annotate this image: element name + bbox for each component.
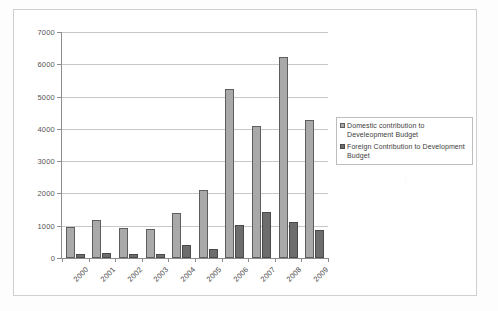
x-axis-label-2003: 2003 — [152, 265, 171, 284]
bar-foreign-2005[interactable] — [209, 249, 218, 258]
y-axis-label: 4000 — [38, 124, 56, 133]
y-axis-tick — [57, 64, 62, 65]
bar-domestic-2003[interactable] — [146, 229, 155, 258]
legend-item-foreign[interactable]: Foreign Contribution to Development Budg… — [340, 142, 469, 160]
y-axis-label: 1000 — [38, 221, 56, 230]
x-axis-tick — [301, 258, 302, 262]
y-axis-label: 0 — [51, 254, 55, 263]
scanned-page: 0100020003000400050006000700020002001200… — [0, 0, 498, 311]
bar-domestic-2001[interactable] — [92, 220, 101, 258]
x-axis-tick — [222, 258, 223, 262]
x-axis-label-2000: 2000 — [72, 265, 91, 284]
bar-foreign-2006[interactable] — [235, 225, 244, 258]
x-axis-tick — [89, 258, 90, 262]
bar-foreign-2007[interactable] — [262, 212, 271, 258]
legend-label-foreign: Foreign Contribution to Development Budg… — [347, 142, 469, 160]
bar-domestic-2009[interactable] — [305, 120, 314, 258]
scan-artifact-mark: ⁚ — [405, 177, 407, 182]
x-axis-tick — [115, 258, 116, 262]
x-axis-label-2006: 2006 — [232, 265, 251, 284]
bar-group — [252, 32, 271, 258]
y-axis-tick — [57, 226, 62, 227]
x-axis-tick — [168, 258, 169, 262]
chart-legend: Domestic contribution to Develeopment Bu… — [336, 117, 473, 165]
bar-domestic-2000[interactable] — [66, 227, 75, 258]
legend-label-domestic: Domestic contribution to Develeopment Bu… — [347, 121, 469, 139]
bar-group — [119, 32, 138, 258]
y-axis-label: 6000 — [38, 60, 56, 69]
bar-foreign-2003[interactable] — [156, 254, 165, 258]
x-axis-tick — [62, 258, 63, 262]
y-axis-label: 5000 — [38, 92, 56, 101]
x-axis-label-2008: 2008 — [285, 265, 304, 284]
bar-domestic-2007[interactable] — [252, 126, 261, 258]
y-axis-tick — [57, 32, 62, 33]
bar-domestic-2002[interactable] — [119, 228, 128, 258]
x-axis-tick — [195, 258, 196, 262]
bar-domestic-2008[interactable] — [279, 57, 288, 258]
x-axis-tick — [142, 258, 143, 262]
bar-group — [305, 32, 324, 258]
x-axis-label-2007: 2007 — [258, 265, 277, 284]
bar-foreign-2008[interactable] — [289, 222, 298, 258]
y-axis-label: 2000 — [38, 189, 56, 198]
legend-item-domestic[interactable]: Domestic contribution to Develeopment Bu… — [340, 121, 469, 139]
legend-swatch-foreign — [340, 144, 345, 149]
x-axis-label-2005: 2005 — [205, 265, 224, 284]
bar-domestic-2005[interactable] — [199, 190, 208, 258]
y-axis-label: 7000 — [38, 28, 56, 37]
bar-group — [199, 32, 218, 258]
y-axis-tick — [57, 97, 62, 98]
bar-foreign-2009[interactable] — [315, 230, 324, 258]
bar-group — [279, 32, 298, 258]
bar-domestic-2004[interactable] — [172, 213, 181, 258]
plot-area: 0100020003000400050006000700020002001200… — [61, 32, 328, 259]
bar-group — [225, 32, 244, 258]
bar-group — [146, 32, 165, 258]
y-axis-tick — [57, 161, 62, 162]
bar-foreign-2001[interactable] — [102, 253, 111, 258]
bar-chart: 0100020003000400050006000700020002001200… — [0, 0, 498, 311]
bar-foreign-2000[interactable] — [76, 254, 85, 258]
x-axis-tick — [328, 258, 329, 262]
x-axis-tick — [248, 258, 249, 262]
bar-foreign-2004[interactable] — [182, 245, 191, 258]
y-axis-tick — [57, 193, 62, 194]
bar-foreign-2002[interactable] — [129, 254, 138, 258]
y-axis-tick — [57, 129, 62, 130]
x-axis-label-2009: 2009 — [311, 265, 330, 284]
x-axis-tick — [275, 258, 276, 262]
legend-swatch-domestic — [340, 123, 345, 128]
y-axis-label: 3000 — [38, 157, 56, 166]
x-axis-label-2001: 2001 — [99, 265, 118, 284]
x-axis-label-2002: 2002 — [125, 265, 144, 284]
bar-group — [66, 32, 85, 258]
bar-group — [172, 32, 191, 258]
bar-domestic-2006[interactable] — [225, 89, 234, 258]
bar-group — [92, 32, 111, 258]
x-axis-label-2004: 2004 — [178, 265, 197, 284]
